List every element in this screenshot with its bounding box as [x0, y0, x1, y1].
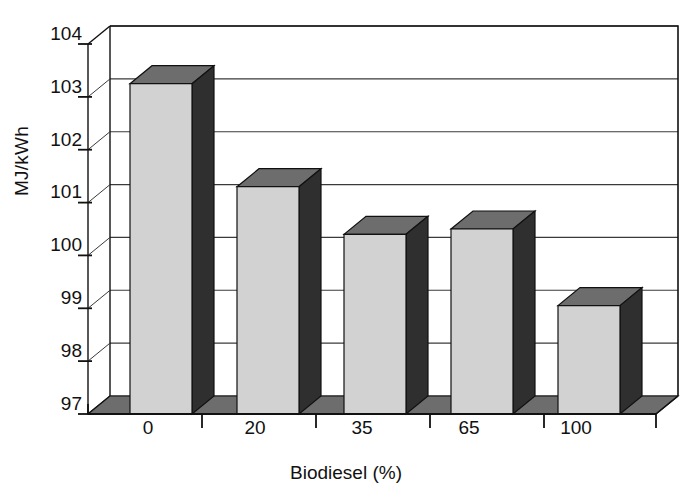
- tick-connector-99: [88, 290, 110, 308]
- chart-container: MJ/kWh 104 103 102 101 100 99 98 97 0 20…: [0, 0, 692, 495]
- depth-edge-top: [88, 26, 110, 44]
- bar-side-face: [299, 169, 321, 414]
- bar-front-face: [344, 234, 406, 414]
- bar-side-face: [513, 211, 535, 414]
- bar-1[interactable]: [237, 169, 321, 414]
- bar-2[interactable]: [344, 216, 428, 414]
- tick-connector-101: [88, 185, 110, 203]
- bar-4[interactable]: [558, 288, 642, 414]
- y-axis-tick-connectors: [88, 79, 110, 361]
- tick-connector-98: [88, 343, 110, 361]
- bar-front-face: [558, 306, 620, 414]
- bar-0[interactable]: [130, 66, 214, 414]
- bar-3[interactable]: [451, 211, 535, 414]
- bar-front-face: [237, 187, 299, 414]
- plot-area: [0, 0, 692, 495]
- y-axis-ticks: [78, 44, 92, 414]
- bar-front-face: [130, 84, 192, 414]
- depth-edges: [88, 26, 110, 414]
- tick-connector-102: [88, 132, 110, 150]
- bar-front-face: [451, 229, 513, 414]
- bar-side-face: [192, 66, 214, 414]
- bar-side-face: [620, 288, 642, 414]
- bar-side-face: [406, 216, 428, 414]
- tick-connector-103: [88, 79, 110, 97]
- tick-connector-100: [88, 237, 110, 255]
